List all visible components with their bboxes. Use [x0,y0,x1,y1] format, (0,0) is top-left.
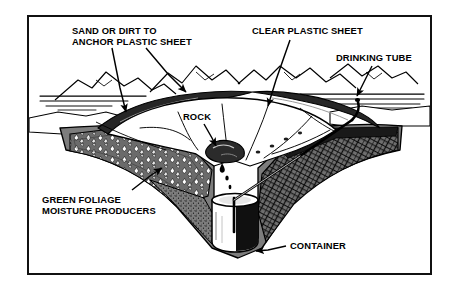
green-foliage-label: GREEN FOLIAGEMOISTURE PRODUCERS [42,194,156,217]
diagram-stage: SAND OR DIRT TOANCHOR PLASTIC SHEET CLEA… [0,0,455,291]
sand-or-dirt-label: SAND OR DIRT TOANCHOR PLASTIC SHEET [72,25,192,48]
rock-label-text: ROCK [183,111,211,122]
sand-or-dirt-label-line2: ANCHOR PLASTIC SHEET [72,36,192,47]
solar-still-illustration [0,0,455,291]
drinking-tube-label: DRINKING TUBE [336,52,412,63]
rock-label: ROCK [183,111,211,122]
green-foliage-label-line1: GREEN FOLIAGE [42,194,121,205]
rock-weight [206,140,245,162]
container-label: CONTAINER [290,240,346,251]
sand-or-dirt-label-line1: SAND OR DIRT TO [72,25,157,36]
clear-plastic-sheet-label-text: CLEAR PLASTIC SHEET [252,25,363,36]
clear-plastic-sheet-label: CLEAR PLASTIC SHEET [252,25,363,36]
container-label-text: CONTAINER [290,240,346,251]
drinking-tube-label-text: DRINKING TUBE [336,52,412,63]
green-foliage-label-line2: MOISTURE PRODUCERS [42,205,156,216]
